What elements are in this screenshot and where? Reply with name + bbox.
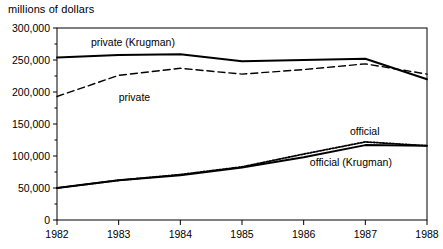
x-axis-tick-label: 1985	[230, 228, 254, 240]
y-axis-tick-label: 150,000	[12, 118, 50, 130]
y-axis-tick-label: 200,000	[12, 86, 50, 98]
x-axis-tick-label: 1982	[45, 228, 69, 240]
y-axis-tick-label: 0	[44, 214, 50, 226]
x-axis-tick-label: 1986	[292, 228, 316, 240]
y-axis-tick-label: 50,000	[18, 182, 50, 194]
y-axis-tick-label: 300,000	[12, 22, 50, 34]
series-annotation-official: official	[350, 125, 380, 137]
series-annotation-private-krugman: private (Krugman)	[91, 36, 175, 48]
y-axis-tick-label: 100,000	[12, 150, 50, 162]
chart-plot-area: 050,000100,000150,000200,000250,000300,0…	[0, 0, 443, 249]
y-axis-tick-label: 250,000	[12, 54, 50, 66]
series-annotation-official-krugman: official (Krugman)	[310, 156, 392, 168]
x-axis-tick-label: 1984	[169, 228, 193, 240]
x-axis-tick-label: 1988	[415, 228, 439, 240]
x-axis-tick-label: 1987	[354, 228, 378, 240]
x-axis-tick-label: 1983	[107, 228, 131, 240]
series-line-private-krugman	[57, 54, 427, 79]
series-annotation-private: private	[119, 91, 151, 103]
series-line-private	[57, 64, 427, 97]
chart-figure: millions of dollars 050,000100,000150,00…	[0, 0, 443, 249]
